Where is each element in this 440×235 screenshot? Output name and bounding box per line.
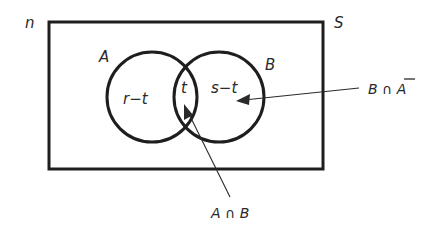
universe-label-s: S: [334, 14, 344, 32]
set-a-circle: [107, 52, 197, 142]
annotation-b-and-not-a: B ∩ A: [368, 81, 406, 97]
region-b-only-label: s−t: [211, 79, 238, 97]
count-label-n: n: [25, 14, 35, 32]
annotation-b-and-not-a-prefix: B ∩: [368, 81, 397, 97]
set-b-circle: [174, 52, 264, 142]
set-label-a: A: [98, 48, 109, 66]
set-label-b: B: [265, 56, 275, 74]
arrow-b-not-a-line: [244, 88, 359, 100]
annotation-a-and-b: A ∩ B: [210, 205, 249, 221]
arrow-a-and-b-line: [188, 112, 230, 197]
arrow-head-b-not-a-icon: [236, 94, 250, 105]
annotation-complement-a: A: [396, 81, 407, 97]
region-intersection-label: t: [181, 79, 188, 97]
venn-diagram: n S A B r−t t s−t B ∩ A A ∩ B: [0, 0, 440, 235]
region-a-only-label: r−t: [123, 90, 149, 108]
